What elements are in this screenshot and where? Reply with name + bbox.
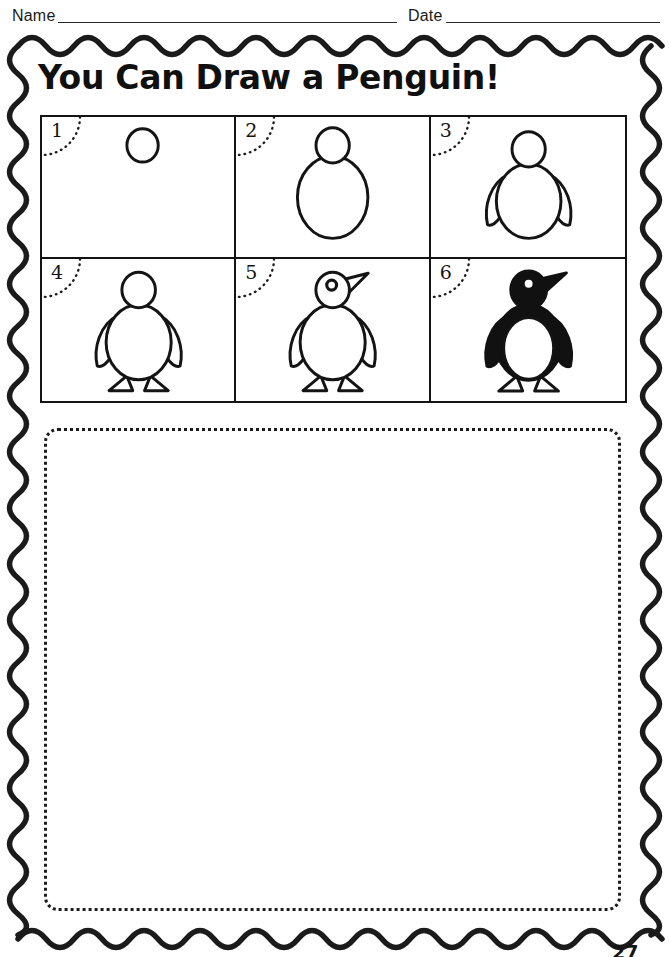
- drawing-area[interactable]: [44, 428, 621, 911]
- date-label: Date: [408, 7, 443, 26]
- step-cell-1: 1: [42, 117, 236, 259]
- step-cell-2: 2: [236, 117, 430, 259]
- step-cell-3: 3: [431, 117, 625, 259]
- step-cell-4: 4: [42, 259, 236, 401]
- step-number-2: 2: [245, 119, 257, 141]
- page-title: You Can Draw a Penguin!: [38, 58, 598, 98]
- name-date-row: Name Date: [0, 0, 669, 30]
- step-number-6: 6: [440, 261, 452, 283]
- step-corner-arc-icon: [236, 117, 282, 163]
- step-number-5: 5: [245, 261, 257, 283]
- step-number-4: 4: [51, 261, 63, 283]
- name-label: Name: [12, 7, 55, 26]
- step-number-3: 3: [440, 119, 452, 141]
- step-corner-arc-icon: [42, 259, 88, 305]
- step-cell-5: 5: [236, 259, 430, 401]
- step-cell-6: 6: [431, 259, 625, 401]
- name-field-group: Name: [12, 7, 397, 26]
- step-corner-arc-icon: [236, 259, 282, 305]
- date-write-line[interactable]: [446, 22, 660, 23]
- step-number-1: 1: [51, 119, 63, 141]
- date-field-group: Date: [408, 7, 660, 26]
- step-corner-arc-icon: [431, 259, 477, 305]
- step-corner-arc-icon: [42, 117, 88, 163]
- steps-grid: 1 2 3 4: [40, 115, 627, 403]
- step-corner-arc-icon: [431, 117, 477, 163]
- page-number: 27: [612, 941, 652, 957]
- name-write-line[interactable]: [58, 22, 397, 23]
